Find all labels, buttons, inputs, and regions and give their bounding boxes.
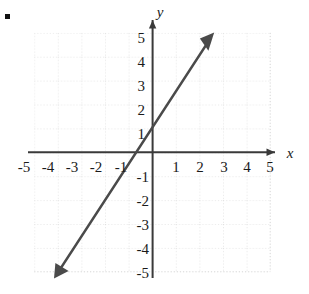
y-axis-label: y (155, 4, 164, 20)
x-tick-label--2: -2 (90, 159, 103, 175)
x-tick-label-3: 3 (220, 159, 228, 175)
y-tick-label-4: 4 (138, 54, 146, 70)
y-axis-arrowhead (149, 20, 156, 29)
y-tick-label-3: 3 (138, 78, 146, 94)
y-tick-label-1: 1 (138, 126, 146, 142)
x-tick-label-1: 1 (172, 159, 180, 175)
x-tick-label--1: -1 (115, 159, 128, 175)
x-tick-label-5: 5 (266, 159, 274, 175)
y-tick-label-5: 5 (138, 30, 146, 46)
x-axis-arrowhead (267, 149, 276, 156)
y-tick-label--5: -5 (137, 265, 150, 281)
y-tick-label-2: 2 (138, 102, 146, 118)
x-axis-label: x (286, 145, 294, 161)
x-tick-label--5: -5 (18, 159, 31, 175)
x-tick-label-2: 2 (196, 159, 204, 175)
x-tick-label--4: -4 (42, 159, 55, 175)
y-tick-label--2: -2 (137, 193, 150, 209)
y-tick-label--4: -4 (137, 241, 150, 257)
x-tick-label-4: 4 (243, 159, 251, 175)
y-tick-label--3: -3 (137, 217, 150, 233)
graph-canvas: -5 -4 -3 -2 -1 1 2 3 4 5 5 4 3 2 1 -1 -2… (0, 0, 309, 294)
x-tick-label--3: -3 (66, 159, 79, 175)
coordinate-plane-figure: -5 -4 -3 -2 -1 1 2 3 4 5 5 4 3 2 1 -1 -2… (0, 0, 309, 294)
y-tick-label--1: -1 (137, 169, 150, 185)
